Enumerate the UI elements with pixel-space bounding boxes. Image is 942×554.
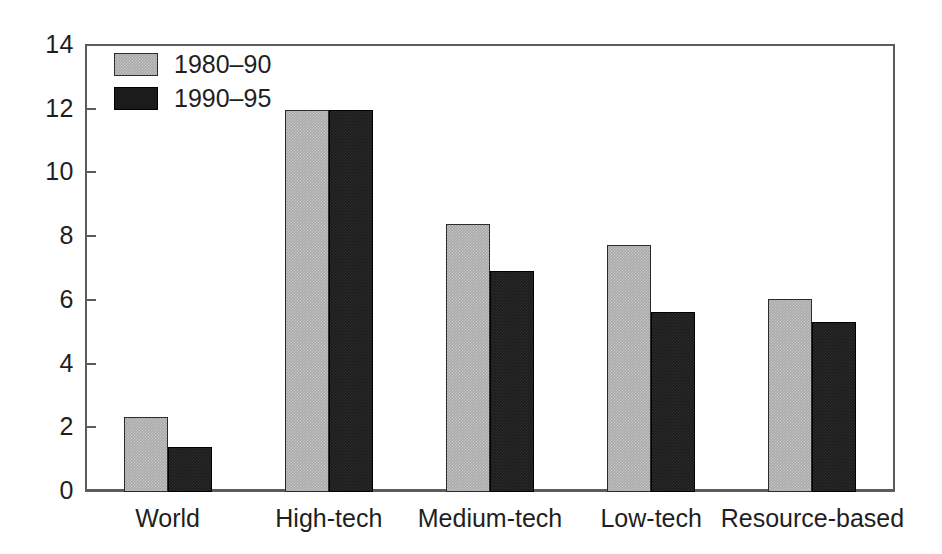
x-tick-label: World	[135, 505, 200, 533]
bar-group	[87, 46, 248, 492]
bar	[651, 312, 695, 492]
bar	[285, 110, 329, 492]
legend-item-series-a: 1980–90	[114, 52, 271, 77]
bar-chart: 02468101214 WorldHigh-techMedium-techLow…	[0, 0, 942, 554]
x-axis: WorldHigh-techMedium-techLow-techResourc…	[87, 505, 893, 545]
bar	[124, 417, 168, 492]
bar	[812, 322, 856, 492]
y-tick-label: 10	[45, 159, 74, 184]
x-tick-label: Resource-based	[721, 505, 904, 533]
bar	[768, 299, 812, 492]
legend-item-series-b: 1990–95	[114, 86, 271, 111]
y-tick-mark	[85, 426, 96, 428]
legend-swatch-1990-95	[114, 87, 158, 110]
y-tick-mark	[85, 363, 96, 365]
y-tick-label: 2	[60, 414, 74, 439]
plot-area	[87, 46, 893, 492]
legend-label-1990-95: 1990–95	[174, 86, 271, 111]
bar-group	[571, 46, 732, 492]
x-tick-label: Medium-tech	[418, 505, 563, 533]
y-tick-mark	[85, 108, 96, 110]
bar-group	[248, 46, 409, 492]
chart-legend: 1980–90 1990–95	[114, 52, 271, 111]
x-tick-label: High-tech	[275, 505, 382, 533]
legend-swatch-1980-90	[114, 53, 158, 76]
bar-group	[409, 46, 570, 492]
y-tick-mark	[85, 235, 96, 237]
y-tick-label: 0	[60, 478, 74, 503]
y-tick-label: 12	[45, 95, 74, 120]
bar	[490, 271, 534, 492]
y-tick-label: 6	[60, 286, 74, 311]
bar	[168, 447, 212, 492]
bar	[329, 110, 373, 492]
y-tick-label: 4	[60, 350, 74, 375]
bar-group	[732, 46, 893, 492]
legend-label-1980-90: 1980–90	[174, 52, 271, 77]
bar	[607, 245, 651, 492]
y-axis: 02468101214	[0, 44, 74, 492]
bar	[446, 224, 490, 492]
y-tick-mark	[85, 171, 96, 173]
y-tick-label: 14	[45, 32, 74, 57]
y-tick-label: 8	[60, 223, 74, 248]
x-tick-label: Low-tech	[600, 505, 701, 533]
y-tick-mark	[85, 299, 96, 301]
